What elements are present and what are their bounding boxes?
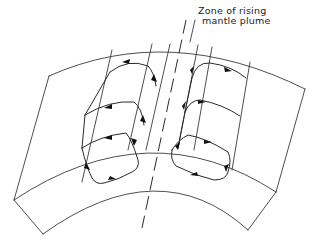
arrow-left-icon (122, 59, 130, 64)
cell-boundaries (82, 44, 250, 182)
right-convection-cells (172, 63, 247, 180)
plume-axis-dashed-line (142, 20, 186, 228)
plume-zone-label: Zone of rising mantle plume (198, 6, 271, 26)
arrow-right-icon (108, 176, 116, 180)
arrow-down-icon (140, 115, 146, 123)
arrow-right-icon (204, 140, 212, 144)
mantle-plume-diagram (0, 0, 320, 247)
label-leader-line (190, 20, 195, 42)
arrow-down-icon (151, 74, 157, 82)
left-convection-cells (82, 63, 156, 183)
plume-zone-label-line2: mantle plume (198, 16, 271, 26)
